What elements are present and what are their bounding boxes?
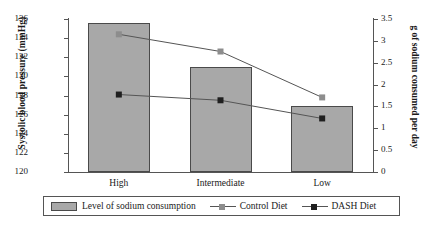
series-line-control-diet bbox=[119, 34, 322, 97]
chart-legend: Level of sodium consumption Control Diet… bbox=[43, 196, 400, 216]
marker-dash-diet-high bbox=[116, 92, 122, 98]
legend-item-control-diet: Control Diet bbox=[210, 201, 288, 211]
legend-line-dash-icon bbox=[302, 202, 328, 211]
legend-label-dash-diet: DASH Diet bbox=[332, 201, 377, 211]
marker-control-diet-intermediate bbox=[218, 49, 224, 55]
legend-label-control-diet: Control Diet bbox=[240, 201, 288, 211]
legend-item-dash-diet: DASH Diet bbox=[302, 201, 377, 211]
chart-container: Systolic blood pressure (mmHg) g of sodi… bbox=[0, 0, 444, 232]
legend-marker-control-icon bbox=[219, 204, 225, 210]
marker-control-diet-high bbox=[116, 31, 122, 37]
legend-marker-dash-icon bbox=[311, 204, 317, 210]
marker-dash-diet-intermediate bbox=[218, 97, 224, 103]
legend-swatch-bar-icon bbox=[51, 202, 77, 211]
marker-control-diet-low bbox=[319, 94, 325, 100]
legend-line-control-icon bbox=[210, 202, 236, 211]
legend-label-sodium: Level of sodium consumption bbox=[82, 201, 196, 211]
marker-dash-diet-low bbox=[319, 115, 325, 121]
legend-item-sodium: Level of sodium consumption bbox=[51, 201, 196, 211]
